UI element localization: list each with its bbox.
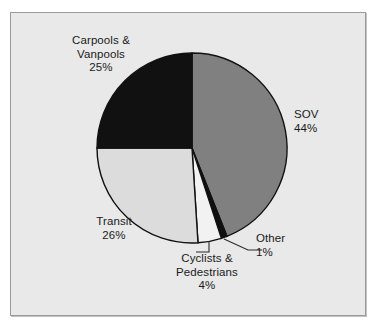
pie-label-transit-line1: Transit [70, 215, 158, 229]
pie-label-carpools-vanpools-line1: Carpools & [42, 34, 160, 48]
pie-label-transit: Transit 26% [70, 215, 158, 242]
pie-label-carpools-vanpools-line2: Vanpools [42, 48, 160, 62]
pie-label-carpools-vanpools: Carpools & Vanpools 25% [42, 34, 160, 75]
pie-label-transit-value: 26% [70, 229, 158, 243]
pie-label-sov-value: 44% [294, 122, 364, 136]
pie-label-cyclists-pedestrians-value: 4% [148, 279, 266, 293]
pie-label-other-value: 1% [256, 246, 320, 260]
pie-label-sov-line1: SOV [294, 108, 364, 122]
pie-label-cyclists-pedestrians-line1: Cyclists & [148, 252, 266, 266]
pie-label-other-line1: Other [256, 232, 320, 246]
pie-label-sov: SOV 44% [294, 108, 364, 135]
pie-label-cyclists-pedestrians: Cyclists & Pedestrians 4% [148, 252, 266, 293]
pie-label-carpools-vanpools-value: 25% [42, 61, 160, 75]
pie-label-other: Other 1% [256, 232, 320, 259]
pie-label-cyclists-pedestrians-line2: Pedestrians [148, 266, 266, 280]
